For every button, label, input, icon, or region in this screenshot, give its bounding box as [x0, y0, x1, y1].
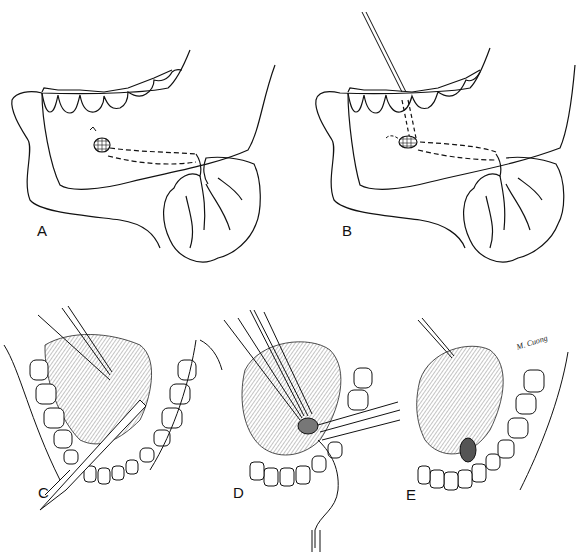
- panel-label-e: E: [406, 486, 416, 503]
- panel-c: C: [0, 290, 200, 552]
- panel-label-c: C: [38, 484, 49, 501]
- panel-label-a: A: [37, 222, 47, 239]
- floor-of-mouth-incision-illustration: [0, 290, 200, 552]
- panel-label-d: D: [233, 484, 244, 501]
- mandible-gland-illustration-a: [0, 0, 290, 290]
- panel-e: E M. Cuong: [400, 290, 580, 552]
- calculus-icon: [298, 418, 318, 434]
- panel-b: B: [290, 0, 580, 290]
- mandible-gland-illustration-b: [290, 0, 580, 290]
- duct-opened-illustration: [400, 290, 580, 552]
- panel-label-b: B: [342, 222, 352, 239]
- panel-a: A: [0, 0, 290, 290]
- calculus-exposure-forceps-illustration: [200, 290, 400, 552]
- panel-d: D: [200, 290, 400, 552]
